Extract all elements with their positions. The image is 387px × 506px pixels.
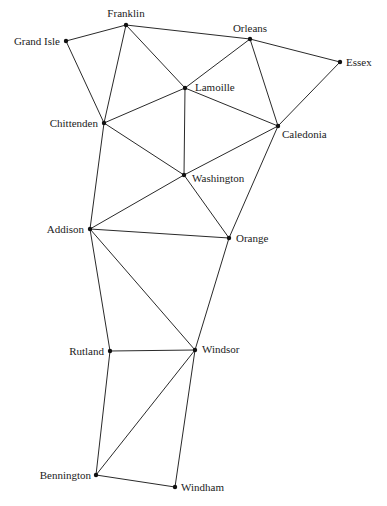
node-windsor: [193, 348, 197, 352]
edge-franklin-grand-isle: [66, 25, 126, 41]
edge-rutland-windsor: [110, 350, 195, 351]
node-washington: [182, 173, 186, 177]
edge-lamoille-chittenden: [104, 88, 185, 123]
edge-chittenden-addison: [90, 123, 104, 229]
edge-orleans-essex: [250, 39, 340, 62]
label-washington: Washington: [192, 172, 245, 184]
edge-addison-windsor: [90, 229, 195, 350]
county-adjacency-graph: FranklinGrand IsleOrleansEssexLamoilleCh…: [0, 0, 387, 506]
edge-chittenden-washington: [104, 123, 184, 175]
edge-franklin-lamoille: [126, 25, 185, 88]
node-rutland: [108, 349, 112, 353]
node-addison: [88, 227, 92, 231]
edge-washington-addison: [90, 175, 184, 229]
edge-franklin-chittenden: [104, 25, 126, 123]
label-rutland: Rutland: [69, 345, 104, 357]
node-orleans: [248, 37, 252, 41]
edge-essex-caledonia: [278, 62, 340, 126]
label-caledonia: Caledonia: [282, 128, 327, 140]
edge-addison-rutland: [90, 229, 110, 351]
edges-layer: [66, 25, 340, 487]
edge-lamoille-washington: [184, 88, 185, 175]
node-lamoille: [183, 86, 187, 90]
label-essex: Essex: [346, 56, 372, 68]
label-bennington: Bennington: [40, 469, 92, 481]
edge-grand-isle-chittenden: [66, 41, 104, 123]
edge-caledonia-washington: [184, 126, 278, 175]
label-lamoille: Lamoille: [195, 81, 235, 93]
edge-lamoille-caledonia: [185, 88, 278, 126]
node-chittenden: [102, 121, 106, 125]
edge-addison-orange: [90, 229, 229, 238]
edge-franklin-orleans: [126, 25, 250, 39]
edge-windsor-windham: [175, 350, 195, 487]
edge-bennington-windham: [96, 475, 175, 487]
node-bennington: [94, 473, 98, 477]
node-franklin: [124, 23, 128, 27]
node-essex: [338, 60, 342, 64]
node-windham: [173, 485, 177, 489]
node-caledonia: [276, 124, 280, 128]
label-addison: Addison: [47, 223, 85, 235]
edge-orleans-caledonia: [250, 39, 278, 126]
label-orleans: Orleans: [233, 22, 267, 34]
node-grand-isle: [64, 39, 68, 43]
node-orange: [227, 236, 231, 240]
label-grand-isle: Grand Isle: [14, 35, 60, 47]
label-windsor: Windsor: [202, 343, 240, 355]
edge-windsor-bennington: [96, 350, 195, 475]
label-orange: Orange: [236, 232, 268, 244]
labels-layer: FranklinGrand IsleOrleansEssexLamoilleCh…: [14, 7, 372, 493]
edge-washington-orange: [184, 175, 229, 238]
label-franklin: Franklin: [107, 7, 145, 19]
label-windham: Windham: [181, 481, 224, 493]
edge-orange-windsor: [195, 238, 229, 350]
label-chittenden: Chittenden: [50, 117, 99, 129]
edge-rutland-bennington: [96, 351, 110, 475]
